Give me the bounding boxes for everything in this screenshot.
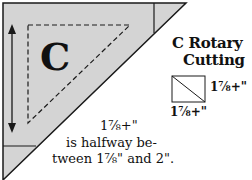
square-cut-icon [172,76,205,102]
title-line-2: Cutting [183,51,245,69]
piece-label: C [40,34,70,79]
note-line-1: 1⅞+" [100,118,138,133]
quilt-piece-diagram: C C Rotary Cutting 1⅞+" 1⅞+" 1⅞+" is hal… [0,0,252,180]
title-line-1: C Rotary [172,34,243,52]
dimension-right: 1⅞+" [210,80,247,94]
note-line-3: tween 1⅞" and 2". [52,151,174,166]
dimension-bottom: 1⅞+" [170,105,207,119]
note-line-2: is halfway be- [66,135,157,150]
